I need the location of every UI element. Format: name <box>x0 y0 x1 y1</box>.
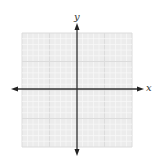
y-axis-label: y <box>74 12 80 22</box>
x-axis-right-arrow-icon <box>137 87 144 92</box>
y-axis-top-arrow-icon <box>75 23 80 30</box>
x-axis-left-arrow-icon <box>11 87 18 92</box>
coordinate-plane-svg <box>0 0 155 162</box>
x-axis-label: x <box>146 83 152 93</box>
y-axis-bottom-arrow-icon <box>75 149 80 156</box>
